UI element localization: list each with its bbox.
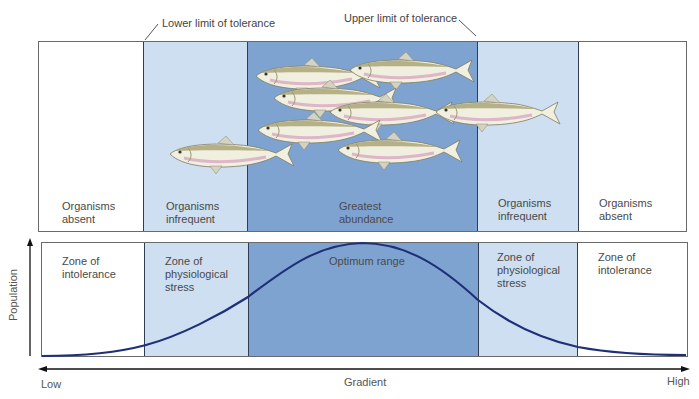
population-bell-curve: [0, 0, 699, 399]
y-axis-arrow: [24, 238, 36, 360]
x-axis-low-label: Low: [41, 378, 61, 390]
x-axis-high-label: High: [667, 375, 690, 387]
x-axis-double-arrow: [38, 364, 690, 374]
y-axis-label: Population: [7, 265, 19, 325]
x-axis-label: Gradient: [344, 376, 386, 388]
